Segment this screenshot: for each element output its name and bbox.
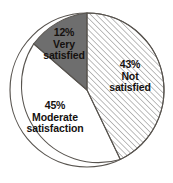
pie-chart: 12% Very satisfied 43% Not satisfied 45%… bbox=[0, 0, 173, 183]
pie-chart-svg bbox=[0, 0, 173, 183]
